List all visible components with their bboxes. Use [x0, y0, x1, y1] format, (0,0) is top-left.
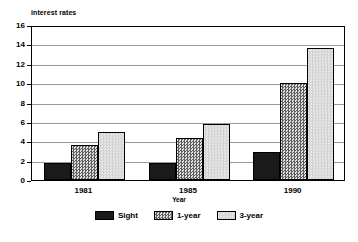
x-axis-title: Year	[0, 196, 358, 203]
y-axis-tick-label: 10	[0, 80, 25, 88]
legend-item-1-year: 1-year	[154, 211, 201, 220]
y-axis-title: interest rates	[31, 9, 76, 16]
y-axis-tick-label: 0	[0, 177, 25, 185]
legend-label: 3-year	[240, 211, 264, 220]
legend-label: Sight	[118, 211, 138, 220]
legend-item-sight: Sight	[95, 211, 138, 220]
gridline	[32, 45, 344, 46]
legend-swatch-1-year	[154, 211, 173, 220]
bar-1985-1-year	[176, 138, 203, 180]
bar-1981-3-year	[98, 132, 125, 180]
bar-chart: interest rates 0246810121416 19811985199…	[0, 0, 358, 242]
x-axis-tick-label: 1985	[179, 186, 197, 195]
bar-1985-3-year	[203, 124, 230, 180]
bar-1985-sight	[149, 163, 176, 180]
y-axis-tick-label: 6	[0, 119, 25, 127]
legend-label: 1-year	[177, 211, 201, 220]
plot-area	[31, 26, 345, 181]
bar-1990-1-year	[280, 83, 307, 180]
y-axis-tick-label: 8	[0, 100, 25, 108]
y-axis-tick-label: 2	[0, 158, 25, 166]
legend-swatch-sight	[95, 211, 114, 220]
y-axis-tick	[27, 181, 31, 182]
gridline	[32, 65, 344, 66]
x-axis-tick-label: 1981	[74, 186, 92, 195]
legend-item-3-year: 3-year	[217, 211, 264, 220]
x-axis-tick-label: 1990	[284, 186, 302, 195]
y-axis-tick-label: 16	[0, 22, 25, 30]
bar-1981-sight	[44, 163, 71, 180]
bar-1990-3-year	[307, 48, 334, 180]
y-axis-tick-label: 12	[0, 61, 25, 69]
y-axis-tick-label: 4	[0, 138, 25, 146]
legend-swatch-3-year	[217, 211, 236, 220]
bar-1990-sight	[253, 152, 280, 180]
y-axis-tick-label: 14	[0, 41, 25, 49]
legend: Sight1-year3-year	[0, 211, 358, 220]
bar-1981-1-year	[71, 145, 98, 180]
